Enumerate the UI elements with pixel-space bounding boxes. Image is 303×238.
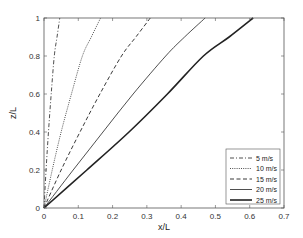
y-tick-label: 0 <box>36 204 41 213</box>
legend-label: 20 m/s <box>256 186 278 193</box>
x-axis-label: x/L <box>158 222 170 232</box>
x-tick-label: 0.5 <box>210 212 222 221</box>
y-axis-label: z/L <box>8 107 18 119</box>
series-line-1 <box>44 18 60 208</box>
x-tick-label: 0.2 <box>107 212 119 221</box>
series-line-5 <box>44 18 253 208</box>
x-tick-label: 0.4 <box>176 212 188 221</box>
series-line-4 <box>44 18 205 208</box>
x-tick-label: 0.6 <box>244 212 256 221</box>
x-tick-label: 0.7 <box>278 212 290 221</box>
legend: 5 m/s10 m/s15 m/s20 m/s25 m/s <box>226 149 280 204</box>
y-tick-label: 0.2 <box>29 166 41 175</box>
series-line-3 <box>44 18 150 208</box>
legend-label: 15 m/s <box>256 176 278 183</box>
x-tick-label: 0 <box>42 212 47 221</box>
y-tick-label: 0.6 <box>29 90 41 99</box>
plot-lines <box>44 18 253 208</box>
x-tick-label: 0.1 <box>73 212 85 221</box>
y-tick-label: 0.8 <box>29 52 41 61</box>
y-tick-label: 0.4 <box>29 128 41 137</box>
x-tick-label: 0.3 <box>141 212 153 221</box>
legend-label: 10 m/s <box>256 165 278 172</box>
legend-label: 25 m/s <box>256 197 278 204</box>
series-line-2 <box>44 18 101 208</box>
y-tick-label: 1 <box>36 14 41 23</box>
chart: 00.10.20.30.40.50.60.700.20.40.60.81 x/L… <box>0 0 303 238</box>
legend-label: 5 m/s <box>256 155 274 162</box>
